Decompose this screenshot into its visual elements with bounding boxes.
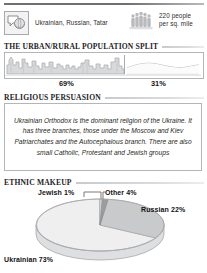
population-density-text: 220 people per sq. mile: [159, 12, 193, 29]
crowd-people-icon: [128, 9, 154, 31]
ethnic-pie-chart: Jewish 1% Other 4% Russian 22% Ukrainian…: [0, 188, 207, 273]
pie-label-jewish: Jewish 1%: [38, 189, 74, 196]
languages-text: Ukrainian, Russian, Tatar: [35, 19, 108, 28]
religion-heading: RELIGIOUS PERSUASION: [4, 93, 204, 102]
urban-percent: 69%: [59, 79, 74, 88]
pie-label-russian: Russian 22%: [141, 206, 185, 213]
religion-heading-text: RELIGIOUS PERSUASION: [4, 93, 101, 102]
heading-rule: [162, 46, 204, 48]
urban-rural-heading-text: THE URBAN/RURAL POPULATION SPLIT: [4, 42, 158, 51]
fact-population-density: 220 people per sq. mile: [128, 9, 193, 31]
pie-label-ukrainian: Ukrainian 73%: [4, 256, 53, 263]
top-divider: [4, 3, 204, 5]
ethnic-heading: ETHNIC MAKEUP: [4, 178, 204, 187]
quick-facts-strip: Ukrainian, Russian, Tatar: [4, 9, 204, 37]
speech-bubble-language-icon: [4, 11, 29, 35]
fact-languages: Ukrainian, Russian, Tatar: [4, 11, 108, 35]
heading-rule: [105, 97, 204, 99]
urban-rural-heading: THE URBAN/RURAL POPULATION SPLIT: [4, 42, 204, 51]
religion-body-text: Ukrainian Orthodox is the dominant relig…: [12, 116, 194, 159]
rural-percent: 31%: [151, 79, 166, 88]
density-line-1: 220 people: [159, 12, 193, 21]
infographic-page: Ukrainian, Russian, Tatar: [0, 0, 207, 273]
heading-rule: [76, 182, 204, 184]
ethnic-heading-text: ETHNIC MAKEUP: [4, 178, 72, 187]
pie-label-other: Other 4%: [105, 189, 137, 196]
urban-rural-chart: [4, 52, 204, 79]
urban-rural-labels: 69% 31%: [4, 79, 202, 89]
religion-panel: Ukrainian Orthodox is the dominant relig…: [4, 103, 202, 171]
density-line-2: per sq. mile: [159, 20, 193, 29]
